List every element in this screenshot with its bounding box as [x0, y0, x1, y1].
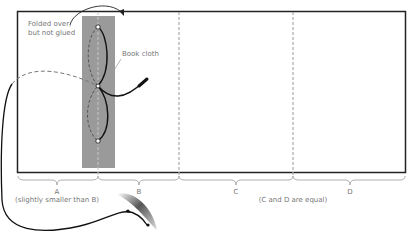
- brace-a: [18, 176, 98, 185]
- hole-middle: [96, 84, 100, 88]
- section-d-label: D: [347, 188, 352, 197]
- brace-b: [98, 176, 179, 185]
- brace-d: [293, 176, 405, 185]
- section-a-note: (slightly smaller than B): [15, 196, 99, 205]
- section-c-label: C: [234, 188, 239, 197]
- cover-board-outline: [18, 12, 406, 173]
- hole-bottom: [96, 139, 100, 143]
- folded-over-label: Folded over, but not glued: [28, 20, 75, 37]
- needle-knot: [126, 209, 129, 212]
- book-cloth-label: Book cloth: [122, 50, 159, 59]
- folded-over-line1: Folded over,: [28, 20, 75, 29]
- brace-c: [179, 176, 293, 185]
- needle-tip: [146, 223, 149, 226]
- cd-equal-note: (C and D are equal): [259, 196, 328, 205]
- hole-top: [96, 25, 100, 29]
- section-b-label: B: [137, 188, 142, 197]
- folded-over-line2: but not glued: [28, 29, 75, 38]
